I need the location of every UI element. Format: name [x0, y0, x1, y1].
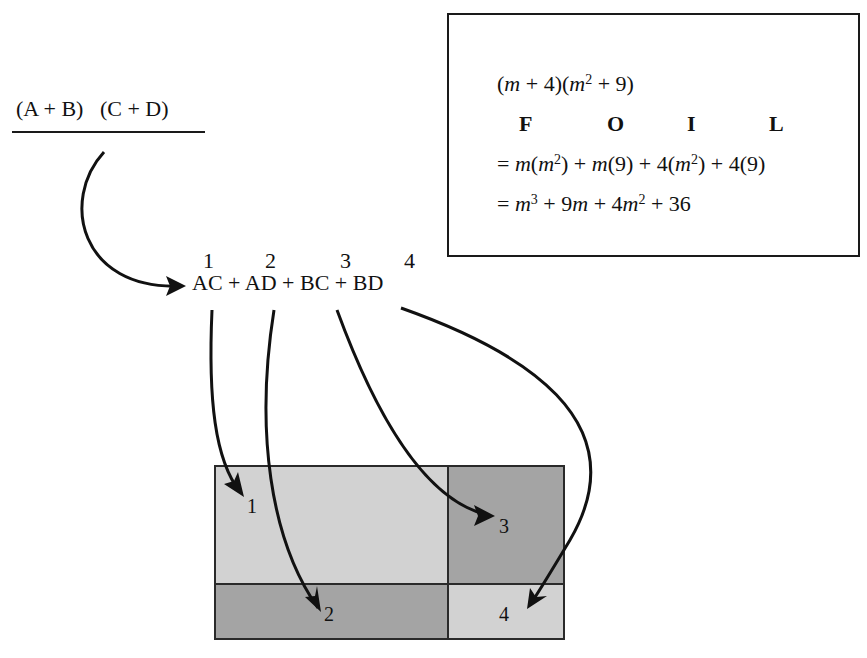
- arrow-ad-to-cell-2: [266, 310, 318, 608]
- arrow-bc-to-cell-3: [337, 310, 488, 515]
- arrowhead-cell-1: [224, 472, 244, 497]
- arrows-layer: [0, 0, 867, 658]
- arrow-to-expansion: [82, 152, 180, 286]
- arrow-bd-to-cell-4: [401, 308, 591, 605]
- arrowhead-cell-3: [474, 505, 495, 526]
- arrowhead-cell-4: [527, 588, 547, 609]
- arrow-ac-to-cell-1: [211, 310, 240, 492]
